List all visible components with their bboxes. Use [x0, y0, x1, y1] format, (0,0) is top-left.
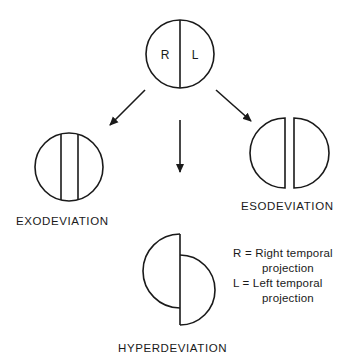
- deviation-diagram: R L EXODEVIATION ESODEVIATION HYPERDEVIA…: [0, 0, 356, 363]
- hyperdeviation-figure: [143, 234, 215, 325]
- legend: R = Right temporal projection L = Left t…: [233, 247, 333, 304]
- left-label: L: [192, 48, 199, 62]
- exodeviation-figure: [35, 133, 103, 201]
- arrow-to-esodeviation-icon: [216, 90, 251, 121]
- legend-r-line2: projection: [262, 262, 314, 274]
- legend-r-line1: R = Right temporal: [233, 247, 333, 259]
- right-label: R: [161, 48, 170, 62]
- legend-l-line1: L = Left temporal: [233, 277, 323, 289]
- hyperdeviation-label: HYPERDEVIATION: [118, 342, 227, 354]
- esodeviation-figure: [250, 118, 329, 188]
- legend-l-line2: projection: [262, 292, 314, 304]
- esodeviation-label: ESODEVIATION: [241, 200, 334, 212]
- normal-projection-circle: R L: [146, 20, 214, 88]
- exodeviation-label: EXODEVIATION: [16, 215, 109, 227]
- arrow-to-exodeviation-icon: [110, 90, 145, 125]
